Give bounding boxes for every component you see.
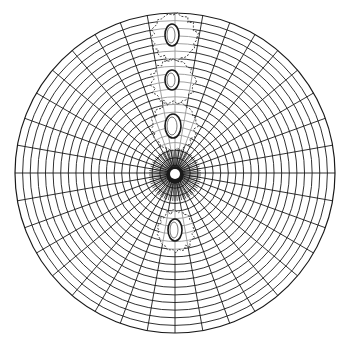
oval-body: [165, 114, 181, 138]
center-spot: [166, 166, 184, 184]
center-light-core: [170, 169, 180, 179]
polar-grid-figure: [0, 0, 348, 340]
